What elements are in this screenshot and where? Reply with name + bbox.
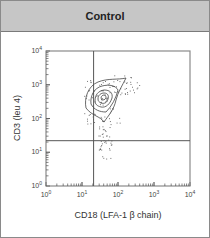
y-axis-title: CD3 (leu 4) xyxy=(12,95,22,141)
x-axis-title: CD18 (LFA-1 β chain) xyxy=(74,210,161,220)
y-tick-label: 104 xyxy=(31,45,42,54)
flow-cytometry-plot: 100101102103104 100101102103104 CD18 (LF… xyxy=(0,0,210,238)
y-tick-label: 100 xyxy=(31,180,42,189)
x-tick-label: 102 xyxy=(113,189,124,198)
population-contours xyxy=(86,78,127,122)
event-dots xyxy=(84,75,140,159)
x-axis-ticks xyxy=(46,182,190,186)
x-tick-label: 104 xyxy=(185,189,196,198)
y-axis-tick-labels: 100101102103104 xyxy=(31,45,42,189)
y-tick-label: 103 xyxy=(31,79,42,88)
plot-frame xyxy=(46,51,190,186)
x-tick-label: 101 xyxy=(77,189,88,198)
x-tick-label: 103 xyxy=(149,189,160,198)
x-tick-label: 100 xyxy=(41,189,52,198)
y-tick-label: 102 xyxy=(31,113,42,122)
y-tick-label: 101 xyxy=(31,146,42,155)
x-axis-tick-labels: 100101102103104 xyxy=(41,189,196,198)
